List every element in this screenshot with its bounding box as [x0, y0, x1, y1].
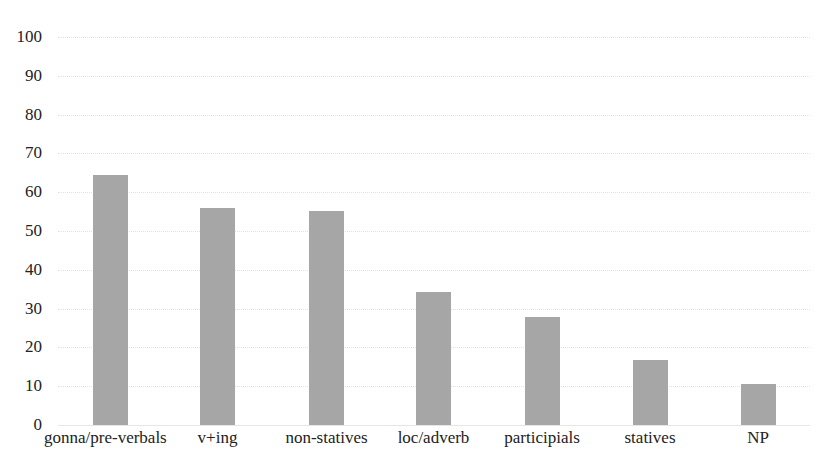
bar-non-statives — [309, 211, 344, 425]
bar-np — [741, 384, 776, 425]
x-tick-label: loc/adverb — [398, 429, 470, 447]
bar-chart: 0102030405060708090100 gonna/pre-verbals… — [0, 0, 824, 473]
y-tick-label: 100 — [6, 28, 42, 45]
y-tick-label: 40 — [6, 261, 42, 278]
y-tick-label: 70 — [6, 144, 42, 161]
y-tick-label: 0 — [6, 416, 42, 433]
bar-gonna-pre-verbals — [93, 175, 128, 425]
gridline — [58, 115, 810, 116]
gridline — [58, 192, 810, 193]
gridline — [58, 153, 810, 154]
bar-participials — [525, 317, 560, 425]
y-tick-label: 90 — [6, 67, 42, 84]
x-tick-label: gonna/pre-verbals — [44, 429, 167, 447]
gridline — [58, 231, 810, 232]
gridline — [58, 76, 810, 77]
gridline — [58, 37, 810, 38]
x-tick-label: participials — [504, 429, 580, 447]
y-tick-label: 20 — [6, 338, 42, 355]
x-tick-label: non-statives — [285, 429, 367, 447]
y-tick-label: 60 — [6, 183, 42, 200]
y-tick-label: 30 — [6, 300, 42, 317]
gridline — [58, 425, 810, 426]
bar-loc-adverb — [416, 292, 451, 425]
y-tick-label: 80 — [6, 106, 42, 123]
bar-statives — [633, 360, 668, 425]
bar-v-ing — [200, 208, 235, 425]
gridline — [58, 270, 810, 271]
x-tick-label: NP — [747, 429, 769, 447]
y-tick-label: 50 — [6, 222, 42, 239]
x-tick-label: v+ing — [198, 429, 238, 447]
x-tick-label: statives — [625, 429, 676, 447]
y-tick-label: 10 — [6, 377, 42, 394]
